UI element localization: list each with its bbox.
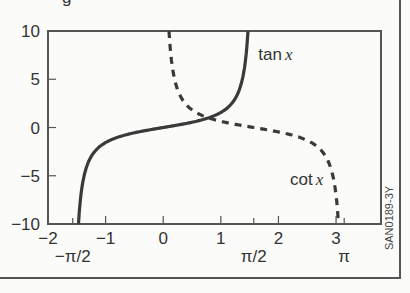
x-tick-label: −2 — [38, 229, 57, 248]
chart: 1050−5−10−2−10123−π/2π/2πtanxcotxSAN0189… — [0, 0, 410, 293]
y-tick-label: 10 — [21, 22, 40, 41]
x-special-tick-label: −π/2 — [55, 247, 91, 266]
curve-label: cotx — [290, 170, 324, 189]
y-tick-label: 5 — [31, 70, 40, 89]
cot-curve — [169, 31, 339, 224]
x-tick-label: 1 — [216, 229, 225, 248]
x-special-tick-label: π — [338, 247, 350, 266]
curve-label: tanx — [258, 45, 293, 64]
y-tick-label: 0 — [31, 119, 40, 138]
y-tick-label: −5 — [21, 167, 40, 186]
x-tick-label: 0 — [158, 229, 167, 248]
y-tick-label: −10 — [11, 215, 40, 234]
x-tick-label: −1 — [96, 229, 115, 248]
tan-curve — [79, 31, 249, 224]
x-tick-label: 3 — [331, 229, 340, 248]
x-tick-label: 2 — [274, 229, 283, 248]
figure-code: SAN0189-3Y — [383, 185, 395, 250]
x-special-tick-label: π/2 — [241, 247, 267, 266]
plot-frame — [48, 31, 381, 224]
